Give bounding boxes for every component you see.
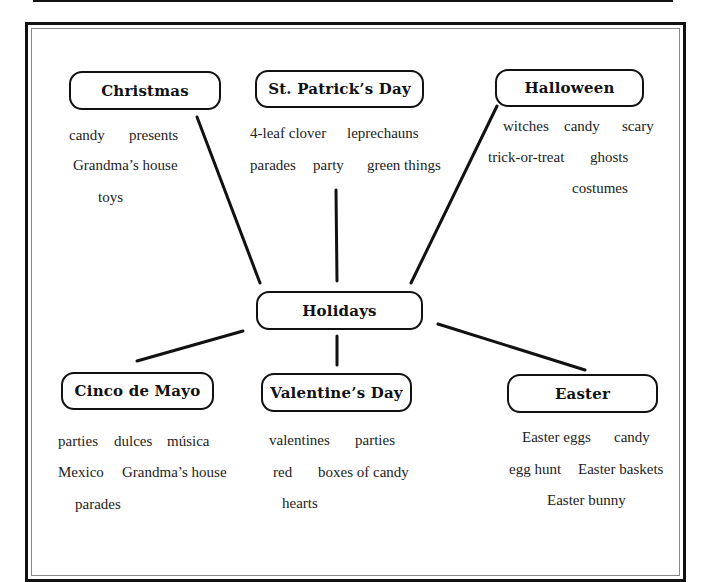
word-stpat-green-things: green things: [367, 157, 441, 174]
word-valentine-boxes-of-candy: boxes of candy: [318, 464, 409, 481]
word-halloween-ghosts: ghosts: [590, 149, 628, 166]
word-easter-candy: candy: [614, 429, 650, 446]
word-halloween-candy: candy: [564, 118, 600, 135]
word-valentine-parties: parties: [355, 432, 395, 449]
word-valentine-red: red: [273, 464, 292, 481]
connector-easter: [438, 324, 585, 370]
word-halloween-witches: witches: [503, 118, 549, 135]
word-christmas-grandmas-house: Grandma’s house: [73, 157, 178, 174]
word-cinco-parties: parties: [58, 433, 98, 450]
word-halloween-costumes: costumes: [572, 180, 628, 197]
word-valentine-valentines: valentines: [269, 432, 330, 449]
word-easter-eggs: Easter eggs: [522, 429, 591, 446]
word-stpat-party: party: [313, 157, 344, 174]
word-cinco-parades: parades: [75, 496, 121, 513]
node-valentines-day: Valentine’s Day: [261, 373, 412, 412]
node-holidays-label: Holidays: [302, 302, 377, 320]
word-stpat-leprechauns: leprechauns: [347, 125, 419, 142]
word-christmas-candy: candy: [69, 127, 105, 144]
word-valentine-hearts: hearts: [282, 495, 318, 512]
node-halloween: Halloween: [495, 69, 644, 107]
word-christmas-toys: toys: [98, 189, 123, 206]
word-cinco-grandmas-house: Grandma’s house: [122, 464, 227, 481]
word-easter-bunny: Easter bunny: [547, 492, 626, 509]
word-easter-baskets: Easter baskets: [578, 461, 663, 478]
node-christmas: Christmas: [69, 71, 221, 110]
connector-halloween: [411, 106, 497, 283]
word-christmas-presents: presents: [129, 127, 178, 144]
node-cinco-de-mayo-label: Cinco de Mayo: [75, 382, 201, 400]
node-valentines-day-label: Valentine’s Day: [270, 384, 403, 402]
node-halloween-label: Halloween: [525, 79, 615, 97]
word-halloween-scary: scary: [622, 118, 654, 135]
node-holidays-center: Holidays: [256, 291, 423, 330]
word-cinco-dulces: dulces: [114, 433, 152, 450]
word-cinco-musica: música: [167, 433, 210, 450]
node-easter: Easter: [507, 374, 658, 413]
word-easter-egg-hunt: egg hunt: [509, 461, 561, 478]
word-stpat-4-leaf-clover: 4-leaf clover: [250, 125, 326, 142]
connector-st-patricks-day: [336, 190, 337, 281]
word-cinco-mexico: Mexico: [58, 464, 104, 481]
node-christmas-label: Christmas: [101, 82, 189, 100]
word-stpat-parades: parades: [250, 157, 296, 174]
word-halloween-trick-or-treat: trick-or-treat: [488, 149, 564, 166]
node-st-patricks-day-label: St. Patrick’s Day: [268, 80, 411, 98]
node-st-patricks-day: St. Patrick’s Day: [255, 70, 424, 108]
connector-cinco-de-mayo: [137, 331, 243, 361]
node-cinco-de-mayo: Cinco de Mayo: [61, 372, 214, 410]
node-easter-label: Easter: [555, 385, 610, 403]
